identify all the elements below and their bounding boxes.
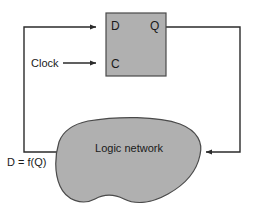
logic-network-shape: [56, 118, 201, 203]
flipflop-input-d-label: D: [111, 20, 120, 32]
feedback-function-label: D = f(Q): [7, 157, 46, 168]
flipflop-output-q-label: Q: [150, 20, 159, 32]
clock-signal-label: Clock: [31, 58, 59, 69]
logic-network-label: Logic network: [0, 143, 258, 154]
flipflop-input-c-label: C: [111, 58, 120, 70]
diagram-canvas: D Q C Clock D = f(Q) Logic network: [0, 0, 258, 213]
diagram-graphics: [0, 0, 258, 213]
